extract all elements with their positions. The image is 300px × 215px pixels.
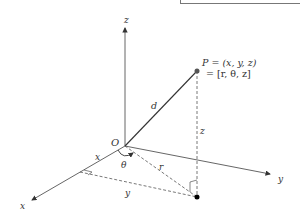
r-label: r bbox=[159, 162, 164, 172]
foot-point bbox=[195, 195, 200, 200]
right-angle-marker-foot bbox=[190, 180, 197, 192]
origin-label: O bbox=[111, 137, 119, 148]
segment-d bbox=[125, 71, 197, 146]
theta-label: θ bbox=[121, 160, 127, 170]
d-label: d bbox=[151, 100, 157, 111]
y-axis-label: y bbox=[277, 174, 284, 184]
point-cartesian-label: P = (x, y, z) bbox=[201, 57, 257, 68]
y-axis bbox=[125, 146, 270, 174]
x-axis-label: x bbox=[20, 201, 25, 211]
x-segment-label: x bbox=[95, 152, 100, 162]
cylindrical-coordinates-diagram: z x y O P = (x, y, z) = [r, θ, z] d z r … bbox=[0, 0, 300, 215]
z-segment-label: z bbox=[199, 126, 205, 136]
point-cylindrical-label: = [r, θ, z] bbox=[206, 68, 251, 79]
y-segment-label: y bbox=[124, 188, 131, 198]
z-axis-label: z bbox=[123, 15, 129, 25]
point-p bbox=[195, 69, 200, 74]
x-axis bbox=[32, 146, 125, 200]
theta-arc bbox=[118, 150, 133, 156]
